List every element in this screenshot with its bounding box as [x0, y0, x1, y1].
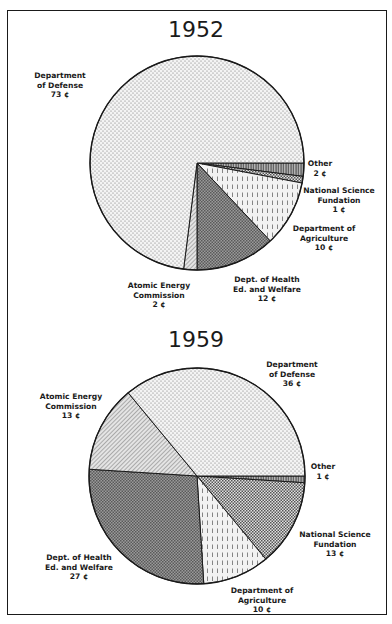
label-1959-agriculture: Department ofAgriculture10 ¢: [231, 586, 294, 615]
label-1959-defense: Departmentof Defense36 ¢: [266, 360, 318, 389]
label-1959-hew: Dept. of HealthEd. and Welfare27 ¢: [45, 553, 113, 582]
label-1959-other: Other1 ¢: [311, 462, 335, 481]
label-1952-nsf: National ScienceFundation1 ¢: [303, 186, 375, 215]
label-1952-aec: Atomic EnergyCommission2 ¢: [128, 281, 190, 310]
chart-title-1952: 1952: [146, 17, 246, 42]
label-1959-aec: Atomic EnergyCommission13 ¢: [40, 392, 102, 421]
label-1952-hew: Dept. of HealthEd. and Welfare12 ¢: [233, 275, 301, 304]
pie-1959: [89, 368, 305, 584]
label-1952-defense: Departmentof Defense73 ¢: [34, 71, 86, 100]
label-1952-agriculture: Department ofAgriculture10 ¢: [293, 224, 356, 253]
chart-title-1959: 1959: [146, 327, 246, 352]
label-1959-nsf: National ScienceFundation13 ¢: [299, 530, 371, 559]
label-1952-other: Other2 ¢: [308, 159, 332, 178]
pie-1952: [90, 56, 304, 270]
